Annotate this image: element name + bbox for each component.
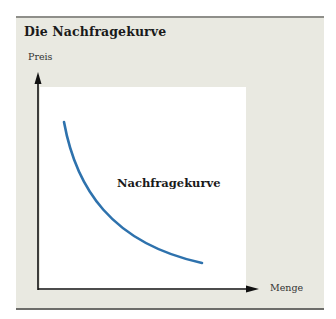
demand-chart xyxy=(16,18,324,312)
diagram-panel: Die Nachfragekurve Preis Nachfragekurve … xyxy=(16,16,324,310)
demand-curve xyxy=(64,122,202,263)
curve-label: Nachfragekurve xyxy=(117,176,221,190)
x-axis-arrow-icon xyxy=(246,286,259,293)
x-axis-label: Menge xyxy=(270,282,303,293)
y-axis-arrow-icon xyxy=(35,72,42,84)
